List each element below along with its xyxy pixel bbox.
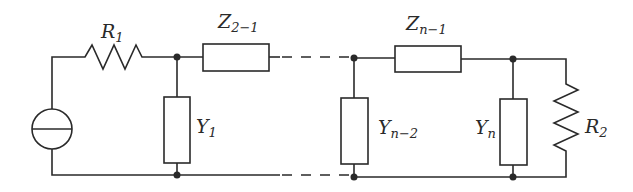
admittance-y1-icon xyxy=(164,97,190,163)
impedance-z21-icon xyxy=(203,44,269,71)
admittance-yn2-icon xyxy=(341,98,368,164)
node-dot xyxy=(174,54,181,61)
label-y1: Y1 xyxy=(196,117,217,139)
resistor-r1-icon xyxy=(79,45,145,69)
node-dot xyxy=(510,56,517,63)
wire-left-top xyxy=(52,57,79,109)
label-r2: R2 xyxy=(585,117,608,139)
label-z21: Z2−1 xyxy=(218,12,259,34)
node-dot xyxy=(351,174,358,181)
node-dot xyxy=(510,174,517,181)
label-r1: R1 xyxy=(101,22,124,44)
resistor-r2-icon xyxy=(554,80,578,166)
circuit-diagram: R1 Z2−1 Y1 Yn−2 Zn−1 Yn R2 xyxy=(0,0,633,192)
circuit-schematic xyxy=(0,0,633,192)
impedance-zn1-icon xyxy=(395,46,461,72)
node-dot xyxy=(174,172,181,179)
label-zn1: Zn−1 xyxy=(406,14,447,36)
wire-bottom-left xyxy=(52,149,280,175)
node-dot xyxy=(351,55,358,62)
admittance-yn-icon xyxy=(500,99,527,165)
label-yn2: Yn−2 xyxy=(378,118,418,140)
current-source-icon xyxy=(32,109,72,149)
label-yn: Yn xyxy=(475,118,496,140)
